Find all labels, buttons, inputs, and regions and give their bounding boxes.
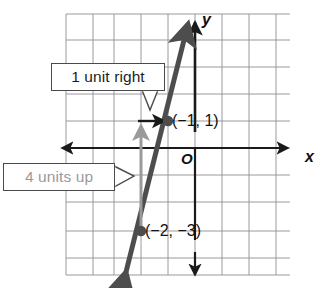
callout-four-units-up: 4 units up [3,163,115,191]
origin-label: O [181,150,193,167]
point-label-a: (−1, 1) [172,112,219,130]
callout-one-unit-right-label: 1 unit right [71,68,145,86]
graph-figure: 1 unit right 4 units up (−1, 1) (−2, −3)… [0,0,321,288]
point-label-b: (−2, −3) [145,222,201,240]
x-axis-label: x [305,148,314,166]
callout-four-units-up-label: 4 units up [25,168,93,186]
callout-tail-up [114,166,134,187]
y-axis-label: y [202,11,211,29]
callout-one-unit-right: 1 unit right [51,63,165,91]
callout-tail-right [142,90,158,110]
graph-canvas [0,0,321,288]
